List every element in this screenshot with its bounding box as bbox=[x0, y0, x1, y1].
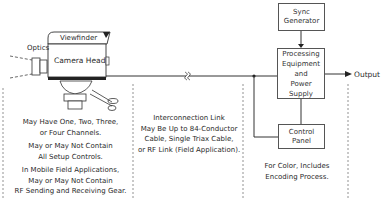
camera-note-rf: In Mobile Field Applications, May or May… bbox=[8, 165, 133, 197]
camera-note-setup: May or May Not Contain All Setup Control… bbox=[8, 141, 133, 162]
viewfinder-label: Viewfinder bbox=[60, 34, 97, 43]
output-arrow-icon bbox=[345, 71, 352, 77]
camera-notes: May Have One, Two, Three, or Four Channe… bbox=[8, 117, 133, 200]
output-label: Output bbox=[354, 70, 380, 79]
link-note: Interconnection Link May Be Up to 84-Con… bbox=[134, 113, 244, 155]
optics-view-line-bottom bbox=[10, 74, 32, 78]
camera-head-label: Camera Head bbox=[54, 56, 105, 65]
control-note: For Color, Includes Encoding Process. bbox=[245, 161, 349, 182]
control-panel-block: Control Panel bbox=[278, 124, 325, 149]
optics-view-line-top bbox=[10, 56, 32, 60]
camera-head-icon bbox=[48, 32, 118, 111]
control-feed-line bbox=[254, 76, 278, 137]
optics-lens-icon bbox=[32, 58, 47, 75]
optics-label: Optics bbox=[27, 44, 49, 53]
sync-generator-block: Sync Generator bbox=[278, 3, 325, 31]
processing-equipment-block: Processing Equipment and Power Supply bbox=[277, 48, 325, 99]
camera-note-channels: May Have One, Two, Three, or Four Channe… bbox=[8, 117, 133, 138]
